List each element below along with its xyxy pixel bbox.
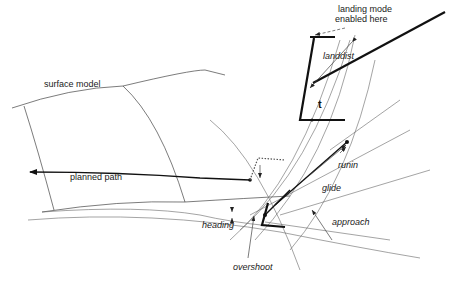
surface-model-label: surface model bbox=[44, 79, 101, 89]
landing-approach-diagram: landing mode enabled here landdist t sur… bbox=[0, 0, 450, 283]
dotted-connector bbox=[250, 158, 285, 180]
landing-mode-leader bbox=[315, 28, 345, 35]
landdist-label: landdist bbox=[323, 51, 355, 61]
overshoot-label: overshoot bbox=[233, 262, 273, 272]
approach-label: approach bbox=[332, 217, 370, 227]
heading-label: heading bbox=[202, 220, 234, 230]
planned-path-line bbox=[30, 172, 250, 180]
t-label: t bbox=[318, 98, 322, 110]
landing-mode-label: landing mode bbox=[338, 4, 392, 14]
runin-label: runin bbox=[338, 160, 358, 170]
landing-path bbox=[262, 12, 445, 227]
glide-label: glide bbox=[322, 183, 341, 193]
enabled-here-label: enabled here bbox=[335, 14, 388, 24]
planned-path-label: planned path bbox=[70, 172, 122, 182]
surface-model-grid bbox=[12, 70, 290, 212]
approach-guide-lines bbox=[28, 35, 430, 270]
